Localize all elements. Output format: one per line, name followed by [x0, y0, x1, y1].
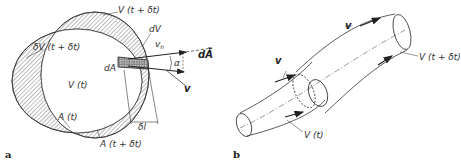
label-v-top: v	[345, 20, 352, 31]
tube-t-dt-left-end	[288, 71, 320, 111]
tube-t-top	[240, 62, 312, 113]
panel-label-b: b	[233, 149, 240, 160]
label-vn: vn	[155, 39, 164, 50]
tube-t-dt-bottom	[325, 50, 407, 113]
label-volume-t: V (t)	[304, 130, 324, 140]
centerline	[240, 30, 405, 128]
label-v-t-dt: V (t + δt)	[118, 5, 160, 15]
tube-t-right-end	[305, 77, 331, 109]
panel-a: V (t + δt) dV vn dA δV (t + δt) dA α v V…	[5, 5, 213, 160]
label-alpha: α	[174, 58, 180, 68]
label-v: v	[184, 83, 191, 94]
label-dv: dV	[149, 24, 162, 34]
alpha-arc	[170, 56, 172, 70]
label-dA-vector: dA	[198, 49, 213, 60]
panel-b	[233, 13, 414, 139]
tube-t-dt-right-end	[390, 13, 415, 52]
label-area-t-dt: A (t + δt)	[99, 139, 142, 149]
panel-b-arrows	[275, 18, 392, 117]
label-delta-v: δV (t + δt)	[33, 42, 80, 52]
diagram-canvas: V (t + δt) dV vn dA δV (t + δt) dA α v V…	[0, 0, 461, 165]
label-area-t: A (t)	[57, 112, 78, 122]
panel-label-a: a	[5, 149, 12, 160]
label-dA: dA	[104, 63, 116, 73]
label-volume-t-dt: V (t + δt)	[419, 52, 461, 62]
label-v-left: v	[275, 55, 282, 66]
label-volume-t: V (t)	[68, 80, 88, 90]
v-leader	[166, 70, 186, 86]
label-delta-l: δl	[138, 122, 147, 132]
